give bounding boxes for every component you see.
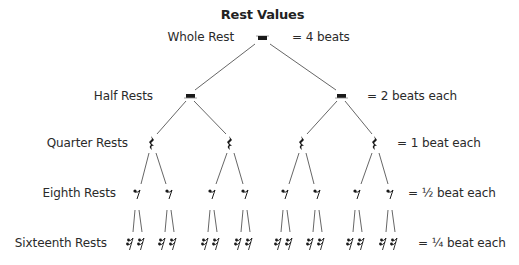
rest-tree [0, 0, 519, 265]
whole-rest-symbol [256, 36, 269, 40]
sixteenth-rest-symbols [126, 238, 397, 250]
eighth-rest-symbols [133, 189, 393, 199]
quarter-rest-symbols [149, 136, 377, 150]
rest-values-diagram: Rest Values Whole Rest = 4 beats Half Re… [0, 0, 519, 265]
half-rest-symbols [184, 94, 348, 98]
tree-lines [133, 44, 395, 232]
